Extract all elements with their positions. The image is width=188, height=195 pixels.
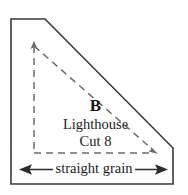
- pattern-diagram-canvas: [0, 0, 188, 195]
- template-outline-shape: [11, 19, 173, 184]
- pattern-piece-diagram: B Lighthouse Cut 8 straight grain: [0, 0, 188, 195]
